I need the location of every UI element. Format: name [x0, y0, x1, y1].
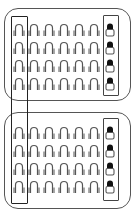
open-padlock-icon [58, 179, 70, 194]
open-padlock-icon [13, 58, 25, 73]
open-padlock-icon [88, 58, 100, 73]
open-padlock-icon [73, 125, 85, 140]
open-padlock-icon [73, 76, 85, 91]
open-padlock-icon [88, 125, 100, 140]
filled-top-padlock-icon [104, 125, 116, 140]
filled-top-padlock-icon [104, 40, 116, 55]
open-padlock-icon [28, 125, 40, 140]
open-padlock-icon [58, 40, 70, 55]
open-padlock-icon [58, 125, 70, 140]
open-padlock-icon [13, 143, 25, 158]
open-padlock-icon [28, 179, 40, 194]
open-padlock-icon [73, 143, 85, 158]
open-padlock-icon [43, 58, 55, 73]
filled-top-padlock-icon [104, 143, 116, 158]
open-padlock-icon [88, 22, 100, 37]
open-padlock-icon [43, 125, 55, 140]
filled-top-padlock-icon [104, 179, 116, 194]
open-padlock-icon [13, 125, 25, 140]
open-padlock-icon [43, 179, 55, 194]
open-padlock-icon [43, 161, 55, 176]
open-padlock-icon [13, 179, 25, 194]
open-padlock-icon [28, 40, 40, 55]
open-padlock-icon [73, 22, 85, 37]
open-padlock-icon [13, 76, 25, 91]
open-padlock-icon [58, 76, 70, 91]
open-padlock-icon [88, 161, 100, 176]
open-padlock-icon [28, 76, 40, 91]
open-padlock-icon [58, 58, 70, 73]
open-padlock-icon [43, 143, 55, 158]
open-padlock-icon [43, 40, 55, 55]
open-padlock-icon [28, 22, 40, 37]
open-padlock-icon [13, 40, 25, 55]
open-padlock-icon [43, 76, 55, 91]
open-padlock-icon [13, 161, 25, 176]
open-padlock-icon [88, 76, 100, 91]
open-padlock-icon [88, 179, 100, 194]
filled-top-padlock-icon [104, 76, 116, 91]
open-padlock-icon [58, 22, 70, 37]
filled-top-padlock-icon [104, 161, 116, 176]
open-padlock-icon [73, 58, 85, 73]
filled-top-padlock-icon [104, 22, 116, 37]
open-padlock-icon [88, 143, 100, 158]
open-padlock-icon [58, 143, 70, 158]
open-padlock-icon [73, 179, 85, 194]
filled-top-padlock-icon [104, 58, 116, 73]
open-padlock-icon [73, 40, 85, 55]
open-padlock-icon [43, 22, 55, 37]
open-padlock-icon [58, 161, 70, 176]
open-padlock-icon [28, 143, 40, 158]
open-padlock-icon [13, 22, 25, 37]
open-padlock-icon [73, 161, 85, 176]
open-padlock-icon [88, 40, 100, 55]
open-padlock-icon [28, 161, 40, 176]
open-padlock-icon [28, 58, 40, 73]
